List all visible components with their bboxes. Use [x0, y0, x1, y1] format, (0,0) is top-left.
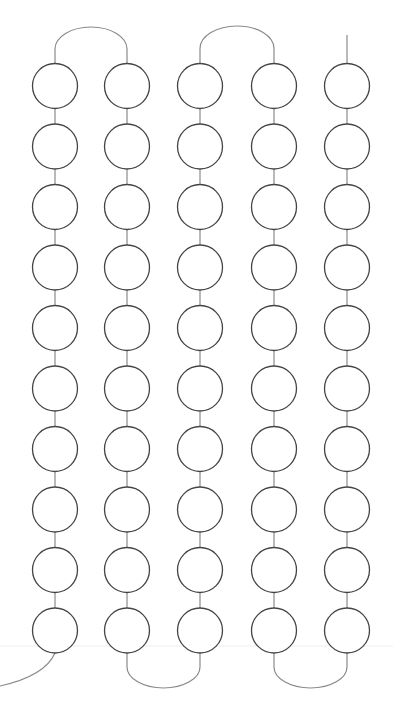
bead-circle — [33, 366, 78, 411]
bead-circle — [178, 245, 223, 290]
bead-circle — [105, 366, 150, 411]
bead-circle — [325, 124, 370, 169]
bead-circle — [105, 245, 150, 290]
bead-circle — [252, 185, 297, 230]
bead-circle — [178, 185, 223, 230]
bead-circle — [33, 124, 78, 169]
bead-circle — [178, 366, 223, 411]
bead-circle — [252, 306, 297, 351]
bead-circle — [325, 548, 370, 593]
bead-circle — [105, 548, 150, 593]
diagram-canvas — [0, 0, 393, 714]
bead-circle — [252, 608, 297, 653]
bead-circle — [252, 427, 297, 472]
bead-circle — [33, 427, 78, 472]
bead-circle — [325, 366, 370, 411]
bead-circle — [33, 185, 78, 230]
bottom-arc-connector — [274, 653, 347, 688]
bead-circle — [252, 487, 297, 532]
bead-circle — [33, 64, 78, 109]
bead-circle — [105, 427, 150, 472]
bead-circle — [178, 306, 223, 351]
bead-circle — [105, 487, 150, 532]
bottom-tail-connector — [0, 653, 55, 686]
bead-circle — [178, 608, 223, 653]
bead-circle — [252, 245, 297, 290]
bottom-arc-connector — [127, 653, 200, 688]
bead-circle — [325, 185, 370, 230]
bead-circle — [105, 306, 150, 351]
bead-circle — [105, 185, 150, 230]
bead-circle — [178, 427, 223, 472]
bead-circle — [325, 608, 370, 653]
bead-circle — [178, 548, 223, 593]
bead-circle — [325, 306, 370, 351]
top-arc-connector — [200, 26, 274, 63]
bead-circle — [33, 487, 78, 532]
bead-circle — [33, 608, 78, 653]
bead-circle — [33, 548, 78, 593]
bead-circle — [325, 64, 370, 109]
bead-circle — [325, 245, 370, 290]
bead-chain-diagram — [0, 0, 393, 714]
bead-circle — [178, 487, 223, 532]
bead-circle — [178, 124, 223, 169]
top-arc-connector — [55, 27, 127, 64]
bead-circle — [325, 487, 370, 532]
bead-circle — [33, 245, 78, 290]
bead-circle — [252, 366, 297, 411]
bead-circle — [178, 64, 223, 109]
bead-circle — [325, 427, 370, 472]
bead-circle — [33, 306, 78, 351]
bead-circle — [105, 608, 150, 653]
bead-circle — [252, 548, 297, 593]
bead-circle — [252, 64, 297, 109]
bead-circle — [105, 124, 150, 169]
bead-circle — [252, 124, 297, 169]
bead-circle — [105, 64, 150, 109]
